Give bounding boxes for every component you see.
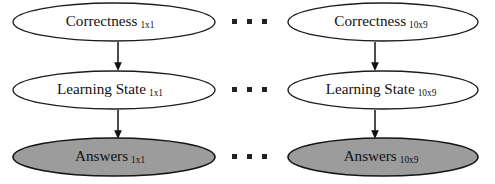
node-subscript: 10x9 xyxy=(418,89,437,99)
ellipsis-row-learning-state xyxy=(232,87,267,92)
edge-correctness-to-learning-state-10x9 xyxy=(371,42,379,71)
node-subscript: 1x1 xyxy=(149,89,163,99)
node-learning-state-1x1[interactable]: Learning State1x1 xyxy=(13,71,215,109)
ellipsis-dot xyxy=(232,87,237,92)
node-label-text: Learning State xyxy=(57,80,146,97)
node-label-text: Answers xyxy=(344,147,397,164)
column-1x1: Correctness1x1 Learning State1x1 xyxy=(13,3,215,176)
ellipsis-dot xyxy=(247,154,252,159)
edge-learning-state-to-answers-1x1 xyxy=(114,110,122,139)
graphical-model-diagram: Correctness1x1 Learning State1x1 xyxy=(0,0,495,184)
ellipsis-dot xyxy=(247,19,252,24)
ellipsis-dot xyxy=(262,19,267,24)
node-subscript: 1x1 xyxy=(140,21,154,31)
ellipsis-dot xyxy=(262,87,267,92)
node-label-text: Learning State xyxy=(326,80,415,97)
node-subscript: 10x9 xyxy=(409,21,428,31)
arrowhead-icon xyxy=(371,62,379,71)
node-correctness-10x9[interactable]: Correctness10x9 xyxy=(288,3,478,41)
node-answers-10x9[interactable]: Answers10x9 xyxy=(288,138,478,176)
diagram-canvas: Correctness1x1 Learning State1x1 xyxy=(0,0,495,184)
ellipsis-dot xyxy=(232,154,237,159)
ellipsis-row-answers xyxy=(232,154,267,159)
node-label-text: Correctness xyxy=(334,12,406,29)
node-subscript: 1x1 xyxy=(131,156,145,166)
node-answers-1x1[interactable]: Answers1x1 xyxy=(13,138,215,176)
node-label-text: Correctness xyxy=(66,12,138,29)
node-learning-state-10x9[interactable]: Learning State10x9 xyxy=(288,71,478,109)
ellipsis-dot xyxy=(247,87,252,92)
ellipsis-dot xyxy=(262,154,267,159)
column-10x9: Correctness10x9 Learning State10x9 xyxy=(288,3,478,176)
node-label-text: Answers xyxy=(75,147,128,164)
ellipsis-dot xyxy=(232,19,237,24)
edge-learning-state-to-answers-10x9 xyxy=(371,110,379,139)
ellipsis-row-correctness xyxy=(232,19,267,24)
node-correctness-1x1[interactable]: Correctness1x1 xyxy=(13,3,215,41)
node-subscript: 10x9 xyxy=(400,156,419,166)
edge-correctness-to-learning-state-1x1 xyxy=(114,42,122,71)
arrowhead-icon xyxy=(114,62,122,71)
